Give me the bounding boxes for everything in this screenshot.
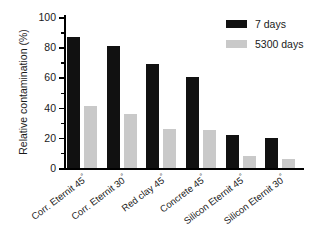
bar xyxy=(84,106,97,168)
chart-legend: 7 days 5300 days xyxy=(226,16,303,56)
y-tick-minor xyxy=(61,62,64,64)
y-tick-label: 20 xyxy=(44,133,56,144)
bar xyxy=(243,156,256,168)
y-tick-minor xyxy=(61,123,64,125)
legend-item-5300-days: 5300 days xyxy=(226,36,303,51)
y-tick xyxy=(59,168,64,170)
y-tick-label: 100 xyxy=(38,12,56,23)
y-tick xyxy=(59,47,64,49)
bar xyxy=(186,77,199,168)
bar xyxy=(124,114,137,168)
y-tick xyxy=(59,77,64,79)
y-tick-minor xyxy=(61,93,64,95)
y-tick xyxy=(59,108,64,110)
y-tick-minor xyxy=(61,153,64,155)
legend-item-7-days: 7 days xyxy=(226,16,303,31)
bar xyxy=(67,37,80,168)
bar xyxy=(203,130,216,168)
y-tick-label: 60 xyxy=(44,72,56,83)
y-tick xyxy=(59,17,64,19)
legend-swatch-icon xyxy=(226,20,247,28)
y-tick-label: 0 xyxy=(50,163,56,174)
y-tick-minor xyxy=(61,32,64,34)
bar-chart: Relative contamination (%) 020406080100 … xyxy=(0,0,325,245)
x-axis-line xyxy=(64,168,304,170)
bar xyxy=(226,135,239,168)
y-tick-label: 80 xyxy=(44,42,56,53)
bar xyxy=(107,46,120,168)
bar xyxy=(146,64,159,168)
legend-label: 7 days xyxy=(255,18,286,30)
legend-swatch-icon xyxy=(226,40,247,48)
bar xyxy=(163,129,176,168)
y-axis-title: Relative contamination (%) xyxy=(17,12,29,172)
legend-label: 5300 days xyxy=(255,38,303,50)
y-tick xyxy=(59,138,64,140)
y-tick-label: 40 xyxy=(44,102,56,113)
bar xyxy=(265,138,278,168)
bar xyxy=(282,159,295,168)
